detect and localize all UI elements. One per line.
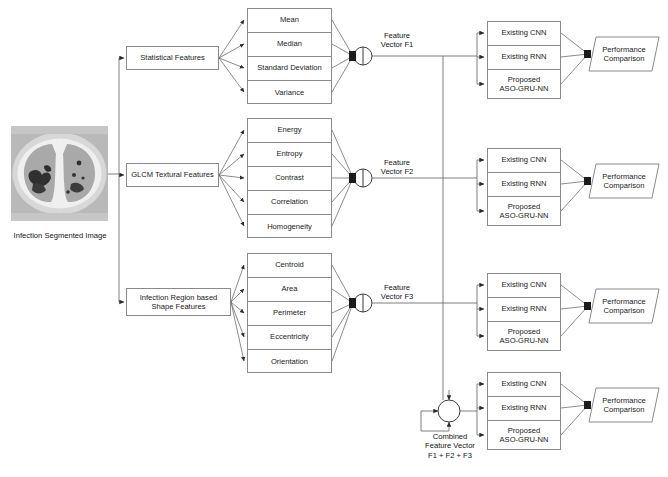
infection-segmented-image — [11, 126, 108, 221]
performance-comparison-label-4: Performance Comparison — [588, 387, 660, 423]
feature-vector-label-f3: Feature Vector F3 — [370, 283, 424, 302]
merge-node-f3 — [349, 294, 372, 312]
ct-scan-graphic — [11, 126, 108, 221]
diagram-canvas: Infection Segmented Image Statistical Fe… — [0, 0, 668, 477]
wire-outputs-group-1 — [561, 33, 591, 84]
classifier-item-cnn[interactable]: Existing CNN — [488, 22, 560, 46]
classifier-item-rnn[interactable]: Existing RNN — [488, 46, 560, 70]
wire-fanout-glcm — [219, 130, 244, 226]
classifier-item-cnn[interactable]: Existing CNN — [488, 149, 560, 173]
wire-fanin-f1 — [332, 20, 353, 92]
feature-item[interactable]: Mean — [248, 9, 331, 33]
feature-vector-label-f1: Feature Vector F1 — [370, 31, 424, 50]
classifier-stack-2: Existing CNN Existing RNN Proposed ASO-G… — [487, 148, 561, 226]
classifier-item-proposed-label: Proposed ASO-GRU-NN — [500, 427, 549, 444]
classifier-item-cnn[interactable]: Existing CNN — [488, 373, 560, 397]
wire-f1-bus — [372, 56, 477, 400]
feature-item[interactable]: Contrast — [248, 167, 331, 191]
feature-item[interactable]: Area — [248, 278, 331, 302]
wire-fanout-shape — [231, 265, 244, 361]
feature-item[interactable]: Median — [248, 33, 331, 57]
classifier-item-rnn[interactable]: Existing RNN — [488, 173, 560, 197]
wire-fanin-f2 — [332, 130, 353, 226]
performance-comparison-label-1: Performance Comparison — [588, 36, 660, 72]
feature-item[interactable]: Orientation — [248, 350, 331, 374]
classifier-item-proposed[interactable]: Proposed ASO-GRU-NN — [488, 197, 560, 227]
feature-stack-glcm: Energy Entropy Contrast Correlation Homo… — [247, 118, 332, 238]
classifier-stack-3: Existing CNN Existing RNN Proposed ASO-G… — [487, 273, 561, 351]
classifier-item-proposed[interactable]: Proposed ASO-GRU-NN — [488, 70, 560, 100]
wire-bracket-group-3 — [477, 285, 484, 336]
classifier-item-proposed[interactable]: Proposed ASO-GRU-NN — [488, 322, 560, 352]
combined-feature-vector-label: Combined Feature Vector F1 + F2 + F3 — [403, 432, 497, 460]
source-image-caption: Infection Segmented Image — [3, 231, 117, 240]
combined-merge-node — [421, 390, 477, 431]
performance-comparison-1[interactable]: Performance Comparison — [588, 36, 660, 72]
classifier-item-rnn[interactable]: Existing RNN — [488, 298, 560, 322]
wire-outputs-group-2 — [561, 160, 591, 211]
feature-item[interactable]: Correlation — [248, 191, 331, 215]
wire-bracket-group-1 — [477, 33, 484, 84]
wire-bracket-group-2 — [477, 160, 484, 211]
feature-item[interactable]: Eccentricity — [248, 326, 331, 350]
feature-item[interactable]: Homogeneity — [248, 215, 331, 239]
category-label-shape: Infection Region based Shape Features — [140, 293, 218, 311]
category-label-glcm: GLCM Textural Features — [131, 170, 214, 179]
feature-stack-shape: Centroid Area Perimeter Eccentricity Ori… — [247, 253, 332, 373]
feature-item[interactable]: Variance — [248, 81, 331, 105]
performance-comparison-3[interactable]: Performance Comparison — [588, 288, 660, 324]
feature-item[interactable]: Standard Deviation — [248, 57, 331, 81]
category-box-glcm[interactable]: GLCM Textural Features — [126, 163, 219, 187]
wire-outputs-group-3 — [561, 285, 591, 336]
performance-comparison-2[interactable]: Performance Comparison — [588, 163, 660, 199]
category-box-statistical[interactable]: Statistical Features — [126, 46, 219, 70]
performance-comparison-label-2: Performance Comparison — [588, 163, 660, 199]
wire-outputs-group-4 — [561, 384, 591, 435]
wire-fanout-statistical — [219, 20, 244, 92]
classifier-item-proposed[interactable]: Proposed ASO-GRU-NN — [488, 421, 560, 451]
classifier-item-proposed-label: Proposed ASO-GRU-NN — [500, 76, 549, 93]
classifier-item-cnn[interactable]: Existing CNN — [488, 274, 560, 298]
feature-stack-statistical: Mean Median Standard Deviation Variance — [247, 8, 332, 104]
classifier-stack-4: Existing CNN Existing RNN Proposed ASO-G… — [487, 372, 561, 450]
feature-item[interactable]: Entropy — [248, 143, 331, 167]
merge-node-f1 — [349, 47, 372, 65]
performance-comparison-4[interactable]: Performance Comparison — [588, 387, 660, 423]
performance-comparison-label-3: Performance Comparison — [588, 288, 660, 324]
wire-image-to-trunk — [108, 58, 124, 302]
feature-item[interactable]: Centroid — [248, 254, 331, 278]
classifier-item-proposed-label: Proposed ASO-GRU-NN — [500, 203, 549, 220]
category-box-shape[interactable]: Infection Region based Shape Features — [126, 288, 231, 316]
feature-item[interactable]: Energy — [248, 119, 331, 143]
feature-item[interactable]: Perimeter — [248, 302, 331, 326]
feature-vector-label-f2: Feature Vector F2 — [370, 158, 424, 177]
merge-node-f2 — [349, 169, 372, 187]
wire-fanin-f3 — [332, 265, 353, 361]
wire-bracket-group-4 — [477, 384, 484, 435]
classifier-item-proposed-label: Proposed ASO-GRU-NN — [500, 328, 549, 345]
classifier-item-rnn[interactable]: Existing RNN — [488, 397, 560, 421]
classifier-stack-1: Existing CNN Existing RNN Proposed ASO-G… — [487, 21, 561, 99]
category-label-statistical: Statistical Features — [140, 53, 205, 62]
